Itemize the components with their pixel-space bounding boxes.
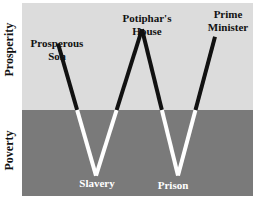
path-segment-prosperity xyxy=(142,29,162,110)
label-line: Slavery xyxy=(68,177,126,190)
point-label-slavery: Slavery xyxy=(68,177,126,190)
label-line: Prosperous xyxy=(26,37,88,50)
path-segment-prosperity xyxy=(195,37,215,110)
point-label-prime-minister: Prime Minister xyxy=(200,8,256,34)
label-line: House xyxy=(116,25,178,38)
path-segment-poverty xyxy=(77,110,96,176)
label-line: Prison xyxy=(147,179,199,192)
label-line: Minister xyxy=(200,21,256,34)
point-label-potiphars-house: Potiphar's House xyxy=(116,12,178,38)
label-line: Son xyxy=(26,50,88,63)
point-label-prosperous-son: Prosperous Son xyxy=(26,37,88,63)
path-segment-poverty xyxy=(162,110,178,176)
path-segment-prosperity xyxy=(117,29,142,110)
point-label-prison: Prison xyxy=(147,179,199,192)
path-segment-poverty xyxy=(178,110,195,176)
path-segment-poverty xyxy=(96,110,117,176)
label-line: Potiphar's xyxy=(116,12,178,25)
label-line: Prime xyxy=(200,8,256,21)
